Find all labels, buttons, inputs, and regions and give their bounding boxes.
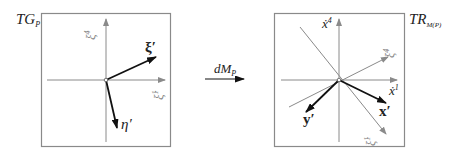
mapping-label-text: dM [214, 61, 231, 76]
left-title-text: TG [16, 11, 35, 27]
left-panel [42, 14, 171, 147]
left-vertical-axis-label: ξ̇4 [84, 30, 97, 40]
right-vertical-axis-label: ẋ4 [322, 17, 332, 30]
left-vertical-axis-superscript: 4 [83, 30, 92, 34]
left-origin [104, 78, 108, 82]
right-panel [275, 14, 405, 147]
left-horizontal-axis-symbol: ξ̇ [151, 94, 166, 100]
x-prime-vector [339, 80, 386, 103]
diagram-canvas: TGP ξ̇4 ξ̇1 ξ′ η′ dMP TRM(P) ẋ4 ẋ1 ξ̇4 ξ… [0, 0, 457, 155]
xi4-image-superscript: 4 [382, 49, 391, 53]
left-horizontal-axis-label: ξ̇1 [152, 90, 165, 100]
xi4-image-label: ξ̇4 [383, 49, 396, 58]
right-origin [337, 78, 341, 82]
right-horizontal-axis-label: ẋ1 [389, 84, 399, 97]
right-vertical-axis-superscript: 4 [328, 16, 332, 25]
left-title-subscript: P [35, 20, 40, 29]
y-prime-label: y′ [303, 112, 315, 127]
eta-prime-label: η′ [121, 117, 132, 132]
right-horizontal-axis-superscript: 1 [395, 83, 399, 92]
xi1-image-superscript: 1 [363, 137, 372, 141]
left-vertical-axis-symbol: ξ̇ [83, 34, 98, 40]
xi-prime-label: ξ′ [145, 40, 156, 55]
xi-prime-vector [106, 57, 156, 80]
eta-prime-vector [106, 80, 117, 128]
right-title-text: TR [409, 11, 427, 27]
mapping-label-subscript: P [231, 69, 236, 78]
xi4-image-symbol: ξ̇ [383, 53, 397, 58]
left-panel-title: TGP [16, 12, 40, 29]
left-horizontal-axis-superscript: 1 [151, 90, 160, 94]
x-prime-label: x′ [379, 104, 391, 119]
xi1-image-symbol: ξ̇ [364, 141, 378, 146]
xi1-image-label: ξ̇1 [364, 137, 377, 146]
mapping-label: dMP [214, 62, 236, 78]
right-panel-title: TRM(P) [409, 12, 441, 29]
right-title-subscript: M(P) [427, 21, 442, 29]
